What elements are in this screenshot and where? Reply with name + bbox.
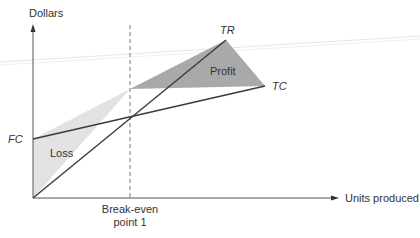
profit-label: Profit <box>210 65 236 77</box>
profit-region <box>130 40 265 89</box>
fc-label: FC <box>8 133 23 145</box>
break-even-label-line1: Break-even <box>102 203 158 215</box>
x-axis-arrow-icon <box>331 196 339 201</box>
tr-label: TR <box>220 24 235 36</box>
x-axis-label: Units produced <box>345 192 419 204</box>
break-even-label-line2: point 1 <box>113 216 146 228</box>
loss-region <box>33 89 130 198</box>
tc-label: TC <box>272 80 287 92</box>
y-axis-label: Dollars <box>29 7 64 19</box>
y-axis-arrow-icon <box>31 24 36 32</box>
loss-label: Loss <box>50 147 74 159</box>
tc-line <box>33 86 265 139</box>
break-even-diagram: Dollars Units produced TR TC FC Loss Pro… <box>0 0 420 238</box>
